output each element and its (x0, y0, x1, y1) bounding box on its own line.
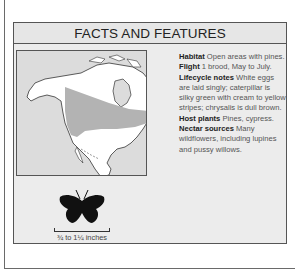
facts-and-features-panel: FACTS AND FEATURES Habitat Open areas wi… (13, 22, 287, 244)
host-plants-text: Pines, cypress. (220, 114, 274, 123)
flight-text: 1 brood, May to July. (200, 62, 272, 71)
range-map (16, 50, 147, 176)
north-america-map-icon (17, 51, 147, 176)
facts-text: Habitat Open areas with pines. Flight 1 … (179, 52, 287, 155)
habitat-text: Open areas with pines. (205, 52, 285, 61)
flight-label: Flight (179, 62, 200, 71)
size-scale-bar (54, 228, 110, 232)
host-plants-label: Host plants (179, 114, 220, 123)
page-bottom-rule (4, 268, 295, 269)
size-label: ¾ to 1¼ inches (40, 233, 124, 242)
lifecycle-label: Lifecycle notes (179, 73, 234, 82)
nectar-label: Nectar sources (179, 124, 234, 133)
butterfly-silhouette-icon (58, 189, 106, 227)
panel-title: FACTS AND FEATURES (14, 23, 286, 44)
page-margin-rule (4, 0, 5, 268)
habitat-label: Habitat (179, 52, 205, 61)
